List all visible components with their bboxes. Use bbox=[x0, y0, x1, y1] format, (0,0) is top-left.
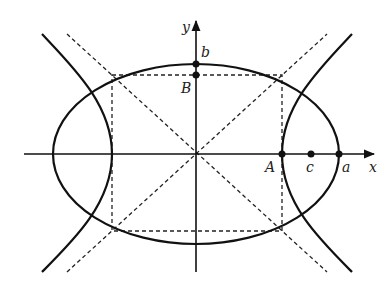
label-A: A bbox=[263, 159, 275, 175]
point-c bbox=[308, 151, 315, 158]
point-b bbox=[193, 61, 200, 68]
point-A bbox=[279, 151, 286, 158]
label-c: c bbox=[306, 159, 314, 175]
point-B bbox=[193, 72, 200, 79]
label-b: b bbox=[201, 44, 210, 60]
label-a: a bbox=[342, 159, 350, 175]
label-B: B bbox=[180, 80, 191, 96]
x-axis-label: x bbox=[369, 159, 377, 175]
point-a bbox=[336, 151, 343, 158]
conic-diagram: y x b B A c a bbox=[0, 0, 389, 284]
y-axis-label: y bbox=[181, 19, 191, 35]
